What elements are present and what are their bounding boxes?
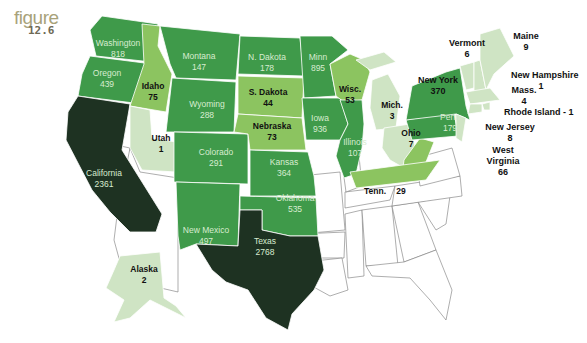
label-newmexico-value: 497: [199, 236, 213, 246]
label-texas-value: 2768: [256, 247, 275, 257]
label-alaska-value: 2: [142, 275, 147, 285]
label-westvirginia-name1: West: [492, 145, 513, 155]
label-montana-name: Montana: [182, 51, 215, 61]
label-kansas-value: 364: [277, 168, 291, 178]
label-mich-name: Mich.: [381, 100, 403, 110]
label-ohio-name: Ohio: [401, 128, 420, 138]
label-wyoming-name: Wyoming: [189, 99, 225, 109]
label-washington-value: 818: [111, 49, 125, 59]
label-wyoming-value: 288: [200, 110, 214, 120]
label-tenn-value: 29: [396, 186, 406, 196]
label-rhodeisland: Rhode Island - 1: [504, 107, 574, 117]
label-nebraska-name: Nebraska: [253, 121, 292, 131]
label-kansas-name: Kansas: [270, 157, 298, 167]
label-newmexico-name: New Mexico: [183, 225, 230, 235]
label-mass-value: 4: [521, 96, 526, 106]
label-wisc-value: 53: [345, 95, 355, 105]
label-california-value: 2361: [95, 179, 114, 189]
label-wisc-name: Wisc.: [339, 84, 361, 94]
label-newhampshire-value: 1: [538, 81, 543, 91]
label-oklahoma-name: Oklahoma: [276, 193, 315, 203]
label-colorado-value: 291: [209, 158, 223, 168]
state-massachusetts: [466, 88, 500, 104]
label-newyork-name: New York: [418, 75, 459, 85]
label-california-name: California: [86, 168, 122, 178]
label-oregon-name: Oregon: [93, 68, 122, 78]
label-minn-name: Minn: [309, 52, 328, 62]
label-westvirginia-name2: Virginia: [487, 156, 521, 166]
label-montana-value: 147: [192, 62, 206, 72]
label-illinois-value: 107: [348, 148, 362, 158]
label-tenn-name: Tenn.: [364, 186, 386, 196]
label-minn-value: 895: [311, 63, 325, 73]
label-iowa-name: Iowa: [311, 113, 329, 123]
label-iowa-value: 936: [313, 124, 327, 134]
label-newjersey-name: New Jersey: [485, 122, 535, 132]
label-ohio-value: 7: [409, 139, 414, 149]
label-ndakota-value: 178: [260, 63, 274, 73]
label-newjersey-value: 8: [507, 133, 512, 143]
label-ndakota-name: N. Dakota: [248, 52, 286, 62]
label-idaho-value: 75: [148, 92, 158, 102]
label-oregon-value: 439: [100, 79, 114, 89]
state-rhode-island: [482, 102, 490, 110]
label-nebraska-value: 73: [267, 132, 277, 142]
label-penn-value: 179: [443, 123, 457, 133]
label-washington-name: Washington: [96, 38, 141, 48]
label-illinois-name: Illinois: [343, 137, 367, 147]
label-alaska-name: Alaska: [130, 264, 158, 274]
label-mich-value: 3: [390, 111, 395, 121]
label-colorado-name: Colorado: [199, 147, 234, 157]
label-vermont-value: 6: [464, 49, 469, 59]
state-south-dakota: [238, 76, 304, 118]
label-newyork-value: 370: [430, 86, 445, 96]
state-maine: [480, 28, 514, 90]
label-westvirginia-value: 66: [498, 167, 508, 177]
label-penn-name: Penn: [440, 112, 460, 122]
label-mass-name: Mass.: [511, 85, 536, 95]
label-maine-value: 9: [523, 42, 528, 52]
label-sdakota-value: 44: [263, 98, 273, 108]
label-sdakota-name: S. Dakota: [249, 87, 288, 97]
label-oklahoma-value: 535: [288, 204, 302, 214]
label-maine-name: Maine: [513, 31, 539, 41]
label-utah-name: Utah: [152, 133, 171, 143]
label-utah-value: 1: [159, 144, 164, 154]
label-texas-name: Texas: [254, 236, 276, 246]
state-alabama: [362, 206, 398, 266]
state-mississippi: [345, 210, 364, 278]
label-newhampshire-name: New Hampshire: [511, 70, 579, 80]
us-map: Washington 818 Oregon 439 California 236…: [0, 0, 587, 343]
label-idaho-name: Idaho: [142, 81, 165, 91]
state-connecticut: [468, 104, 482, 114]
label-vermont-name: Vermont: [449, 38, 485, 48]
